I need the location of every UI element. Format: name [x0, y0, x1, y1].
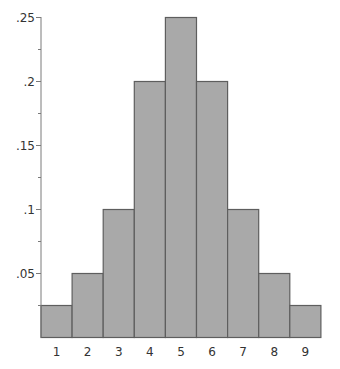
- bar-3: [103, 210, 134, 338]
- bar-8: [259, 274, 290, 338]
- x-tick-label: 5: [177, 345, 185, 359]
- y-tick-label: .1: [24, 203, 35, 217]
- y-tick-label: .2: [24, 75, 35, 89]
- bars-group: [41, 18, 321, 338]
- x-tick-label: 9: [302, 345, 310, 359]
- x-tick-label: 3: [115, 345, 123, 359]
- y-tick-label: .25: [16, 11, 35, 25]
- bar-6: [197, 82, 228, 338]
- bar-1: [41, 306, 72, 338]
- x-tick-label: 4: [146, 345, 154, 359]
- x-tick-label: 8: [270, 345, 278, 359]
- x-tick-label: 2: [84, 345, 92, 359]
- x-tick-label: 6: [208, 345, 216, 359]
- y-axis: .05.1.15.2.25: [16, 11, 41, 338]
- y-tick-label: .15: [16, 139, 35, 153]
- bar-2: [72, 274, 103, 338]
- bar-7: [228, 210, 259, 338]
- bar-5: [165, 18, 196, 338]
- x-axis-labels: 123456789: [53, 345, 309, 359]
- histogram-chart: .05.1.15.2.25 123456789: [0, 0, 340, 369]
- y-tick-label: .05: [16, 267, 35, 281]
- x-tick-label: 1: [53, 345, 61, 359]
- x-tick-label: 7: [239, 345, 247, 359]
- bar-4: [134, 82, 165, 338]
- bar-9: [290, 306, 321, 338]
